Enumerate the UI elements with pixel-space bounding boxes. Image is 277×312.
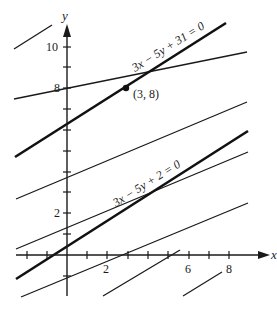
y-axis-arrow-icon [63, 24, 71, 37]
equation-label-31: 3x − 5y + 31 = 0 [128, 19, 207, 75]
x-tick-label-8: 8 [226, 262, 232, 276]
parallel-line [14, 52, 247, 99]
x-tick-label-6: 6 [185, 262, 191, 276]
x-tick-label-2: 2 [103, 262, 109, 276]
y-tick-label-2: 2 [54, 206, 60, 220]
parallel-line [103, 203, 248, 296]
y-axis-label: y [60, 8, 68, 23]
x-axis-arrow-icon [258, 251, 270, 259]
point-label: (3, 8) [133, 87, 159, 101]
line-3x-5y-2 [16, 131, 248, 279]
y-tick-label-8: 8 [54, 81, 60, 95]
point-marker [123, 85, 129, 91]
y-tick-label-10: 10 [46, 40, 58, 54]
x-axis-label: x [270, 247, 277, 262]
coordinate-plane: 2 6 8 2 8 10 x y (3, 8) 3x − 5y + 31 = 0… [0, 0, 277, 312]
